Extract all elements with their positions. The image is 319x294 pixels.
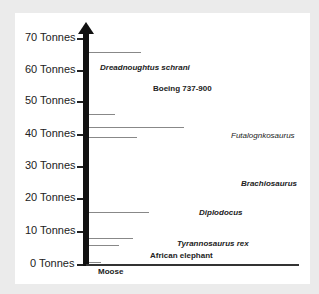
tick-0 — [77, 264, 83, 266]
ref-line-moose — [89, 262, 101, 263]
tick-40 — [77, 134, 83, 136]
tick-30 — [77, 166, 83, 168]
label-moose: Moose — [98, 267, 123, 276]
tick-label-20: 20 Tonnes — [25, 191, 76, 203]
x-baseline — [86, 264, 299, 266]
ref-line-diplodocus — [89, 212, 149, 213]
label-boeing: Boeing 737-900 — [153, 84, 212, 93]
label-brachiosaurus: Brachiosaurus — [241, 179, 297, 188]
chart-panel — [15, 13, 310, 284]
ref-line-elephant — [89, 245, 119, 246]
ref-line-dreadnoughtus — [89, 52, 141, 53]
tick-60 — [77, 70, 83, 72]
ref-line-brachiosaurus — [89, 137, 137, 138]
label-diplodocus: Diplodocus — [199, 208, 243, 217]
tick-50 — [77, 101, 83, 103]
tick-label-50: 50 Tonnes — [25, 94, 76, 106]
tick-label-10: 10 Tonnes — [25, 224, 76, 236]
label-dreadnoughtus: Dreadnoughtus schrani — [100, 63, 190, 72]
tick-10 — [77, 231, 83, 233]
ref-line-boeing — [89, 114, 115, 115]
ref-line-trex — [89, 238, 133, 239]
ref-line-futalognkosaurus — [89, 127, 184, 128]
label-elephant: African elephant — [150, 251, 213, 260]
label-futalognkosaurus: Futalognkosaurus — [231, 131, 295, 140]
tick-label-0: 0 Tonnes — [30, 257, 74, 269]
tick-label-70: 70 Tonnes — [25, 31, 76, 43]
tick-label-30: 30 Tonnes — [25, 159, 76, 171]
tick-label-60: 60 Tonnes — [25, 63, 76, 75]
tick-label-40: 40 Tonnes — [25, 127, 76, 139]
y-axis — [83, 33, 89, 266]
tick-20 — [77, 198, 83, 200]
tick-70 — [77, 38, 83, 40]
label-trex: Tyrannosaurus rex — [177, 239, 249, 248]
